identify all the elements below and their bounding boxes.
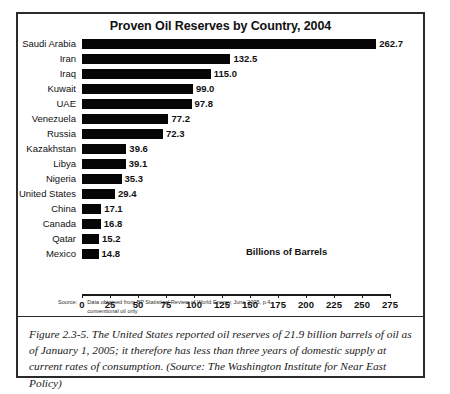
bar — [82, 219, 101, 229]
x-axis-label: Billions of Barrels — [246, 246, 327, 257]
bar-value-label: 77.2 — [171, 113, 190, 125]
bar-category-label: Qatar — [18, 233, 76, 245]
bar-row: Venezuela77.2 — [18, 113, 423, 128]
bar-category-label: Mexico — [18, 248, 76, 260]
bar — [82, 144, 126, 154]
bar-category-label: Russia — [18, 128, 76, 140]
bar-category-label: Libya — [18, 158, 76, 170]
bar — [82, 189, 115, 199]
bar-row: Kuwait99.0 — [18, 83, 423, 98]
bar-category-label: Nigeria — [18, 173, 76, 185]
bar-row: Iraq115.0 — [18, 68, 423, 83]
bar — [82, 99, 192, 109]
bar — [82, 69, 211, 79]
x-axis-tick-label: 225 — [326, 299, 342, 310]
x-axis-tick-label: 275 — [382, 299, 398, 310]
bar-value-label: 72.3 — [166, 128, 185, 140]
source-lines: Data obtained from BP Statistical Review… — [87, 298, 270, 316]
bar-row: Nigeria35.3 — [18, 173, 423, 188]
caption-panel: Figure 2.3-5. The United States reported… — [18, 317, 423, 391]
bar-row: Mexico14.8 — [18, 248, 423, 263]
source-note: Source: Data obtained from BP Statistica… — [58, 298, 270, 316]
bar — [82, 249, 99, 259]
source-label: Source: — [58, 298, 77, 316]
x-axis-tick — [334, 294, 335, 298]
bar-value-label: 35.3 — [125, 173, 144, 185]
x-axis-line — [82, 294, 391, 296]
x-axis-tick-label: 200 — [298, 299, 314, 310]
bar — [82, 129, 163, 139]
bar-category-label: United States — [18, 188, 76, 200]
bar-row: Iran132.5 — [18, 53, 423, 68]
bar-category-label: Venezuela — [18, 113, 76, 125]
bar-row: UAE97.8 — [18, 98, 423, 113]
bar-value-label: 14.8 — [102, 248, 121, 260]
figure-frame: Proven Oil Reserves by Country, 2004 Sau… — [16, 12, 425, 378]
bar-value-label: 132.5 — [233, 53, 257, 65]
bar-value-label: 97.8 — [195, 98, 214, 110]
bar-row: Kazakhstan39.6 — [18, 143, 423, 158]
x-axis-tick — [278, 294, 279, 298]
bar-category-label: Kazakhstan — [18, 143, 76, 155]
bar-row: Qatar15.2 — [18, 233, 423, 248]
bar-row: Canada16.8 — [18, 218, 423, 233]
bar — [82, 159, 126, 169]
bar-row: Saudi Arabia262.7 — [18, 38, 423, 53]
bar-chart-plot-area: Saudi Arabia262.7Iran132.5Iraq115.0Kuwai… — [18, 38, 423, 290]
bar-value-label: 17.1 — [104, 203, 123, 215]
chart-title: Proven Oil Reserves by Country, 2004 — [18, 19, 423, 33]
bar-value-label: 115.0 — [214, 68, 237, 80]
bar — [82, 84, 193, 94]
x-axis-tick — [306, 294, 307, 298]
bar-category-label: Iran — [18, 53, 76, 65]
chart-panel: Proven Oil Reserves by Country, 2004 Sau… — [18, 14, 423, 317]
bar — [82, 204, 101, 214]
figure-caption: Figure 2.3-5. The United States reported… — [29, 326, 412, 391]
bar-row: China17.1 — [18, 203, 423, 218]
bar — [82, 174, 122, 184]
x-axis-tick-label: 250 — [354, 299, 370, 310]
bar-row: United States29.4 — [18, 188, 423, 203]
bar-category-label: Canada — [18, 218, 76, 230]
x-axis-tick — [362, 294, 363, 298]
bar-category-label: Iraq — [18, 68, 76, 80]
bar-category-label: Kuwait — [18, 83, 76, 95]
bar — [82, 39, 376, 49]
bar-row: Russia72.3 — [18, 128, 423, 143]
source-line-2: conventional oil only — [87, 307, 270, 316]
bar-category-label: UAE — [18, 98, 76, 110]
bar-value-label: 39.6 — [129, 143, 148, 155]
x-axis-tick-label: 175 — [270, 299, 286, 310]
bar-value-label: 16.8 — [104, 218, 123, 230]
bar-value-label: 39.1 — [129, 158, 148, 170]
source-line-1: Data obtained from BP Statistical Review… — [87, 298, 270, 307]
bar-value-label: 15.2 — [102, 233, 121, 245]
bar — [82, 54, 230, 64]
bar — [82, 234, 99, 244]
bar-category-label: China — [18, 203, 76, 215]
bar-row: Libya39.1 — [18, 158, 423, 173]
bar-value-label: 99.0 — [196, 83, 215, 95]
bar-value-label: 29.4 — [118, 188, 137, 200]
bar-value-label: 262.7 — [379, 38, 403, 50]
x-axis-tick — [390, 294, 391, 298]
bar — [82, 114, 168, 124]
bar-category-label: Saudi Arabia — [18, 38, 76, 50]
bar-series: Saudi Arabia262.7Iran132.5Iraq115.0Kuwai… — [18, 38, 423, 263]
